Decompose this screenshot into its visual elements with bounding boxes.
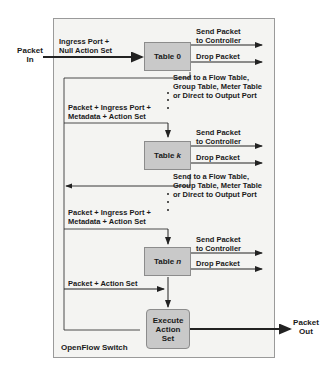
pl1-line2: Metadata + Action Set — [68, 112, 151, 121]
entry-label-line2: Null Action Set — [59, 46, 112, 55]
table-0-index: 0 — [177, 52, 181, 61]
packet-out-label: Packet Out — [288, 318, 324, 336]
packet-in-line2: In — [14, 55, 46, 64]
table-0-controller-label: Send Packet to Controller — [196, 27, 241, 45]
table-k-forward-label: Send to a Flow Table, Group Table, Meter… — [173, 172, 262, 199]
exec-line2: Action — [156, 325, 181, 334]
tk-fwd-line3: or Direct to Output Port — [173, 190, 262, 199]
pipeline-label-1: Packet + Ingress Port + Metadata + Actio… — [68, 103, 151, 121]
table-0-name: Table — [154, 52, 174, 61]
table-k-controller-label: Send Packet to Controller — [196, 128, 241, 146]
entry-label-line1: Ingress Port + — [59, 37, 112, 46]
table-k: Tablek — [144, 141, 191, 170]
packet-out-line1: Packet — [288, 318, 324, 327]
execute-action-set-box: Execute Action Set — [146, 309, 190, 349]
entry-label: Ingress Port + Null Action Set — [59, 37, 112, 55]
table-0-drop-label: Drop Packet — [196, 52, 240, 61]
table-k-drop-label: Drop Packet — [196, 153, 240, 162]
tn-ctrl-line1: Send Packet — [196, 235, 241, 244]
tk-ctrl-line1: Send Packet — [196, 128, 241, 137]
table-n-drop-label: Drop Packet — [196, 259, 240, 268]
table-n: Tablen — [144, 247, 191, 276]
tn-ctrl-line2: to Controller — [196, 244, 241, 253]
table-0-forward-label: Send to a Flow Table, Group Table, Meter… — [173, 73, 262, 100]
ellipsis-dot — [167, 107, 169, 109]
openflow-switch-title: OpenFlow Switch — [61, 343, 128, 352]
ellipsis-dot — [167, 92, 169, 94]
table-n-controller-label: Send Packet to Controller — [196, 235, 241, 253]
table-n-index: n — [176, 257, 181, 266]
exec-line1: Execute — [153, 316, 184, 325]
ellipsis-dot — [167, 99, 169, 101]
pipeline-label-2: Packet + Ingress Port + Metadata + Actio… — [68, 208, 151, 226]
tk-ctrl-line2: to Controller — [196, 137, 241, 146]
pl1-line1: Packet + Ingress Port + — [68, 103, 151, 112]
ellipsis-dot — [167, 209, 169, 211]
t0-fwd-line1: Send to a Flow Table, — [173, 73, 262, 82]
t0-fwd-line3: or Direct to Output Port — [173, 91, 262, 100]
table-n-name: Table — [154, 257, 174, 266]
pl2-line2: Metadata + Action Set — [68, 217, 151, 226]
table-k-index: k — [176, 151, 180, 160]
tk-fwd-line2: Group Table, Meter Table — [173, 181, 262, 190]
packet-in-label: Packet In — [14, 46, 46, 64]
ellipsis-dot — [167, 193, 169, 195]
table-k-name: Table — [154, 151, 174, 160]
exec-line3: Set — [162, 334, 174, 343]
packet-in-line1: Packet — [14, 46, 46, 55]
t0-fwd-line2: Group Table, Meter Table — [173, 82, 262, 91]
pipeline-label-3: Packet + Action Set — [68, 279, 138, 288]
table-0: Table 0 — [144, 42, 191, 71]
pl2-line1: Packet + Ingress Port + — [68, 208, 151, 217]
t0-ctrl-line1: Send Packet — [196, 27, 241, 36]
tk-fwd-line1: Send to a Flow Table, — [173, 172, 262, 181]
t0-ctrl-line2: to Controller — [196, 36, 241, 45]
ellipsis-dot — [167, 201, 169, 203]
packet-out-line2: Out — [288, 327, 324, 336]
